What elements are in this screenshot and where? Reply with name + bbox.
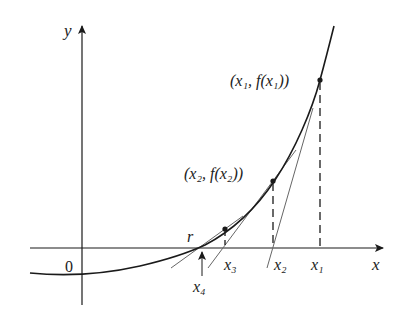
function-curve	[30, 26, 334, 275]
point-x1-label: (x₁, f(x₁))	[230, 72, 289, 90]
root-label: r	[187, 228, 194, 245]
x2-label: x₂	[273, 256, 287, 273]
point-x1	[317, 77, 322, 82]
newton-method-diagram: y x 0 (x₁, f(x₁)) (x₂, f(x₂)) r x₁ x₂ x₃…	[0, 0, 407, 329]
tangent-at-x1	[267, 108, 313, 268]
point-x2-label: (x₂, f(x₂))	[184, 165, 243, 183]
y-axis-label: y	[62, 21, 72, 40]
x4-label: x₄	[192, 278, 206, 295]
x3-label: x₃	[223, 256, 237, 273]
point-x2	[270, 178, 275, 183]
origin-label: 0	[65, 258, 73, 275]
x-axis-label: x	[371, 255, 380, 274]
x1-label: x₁	[310, 256, 324, 273]
point-x3	[222, 226, 227, 231]
